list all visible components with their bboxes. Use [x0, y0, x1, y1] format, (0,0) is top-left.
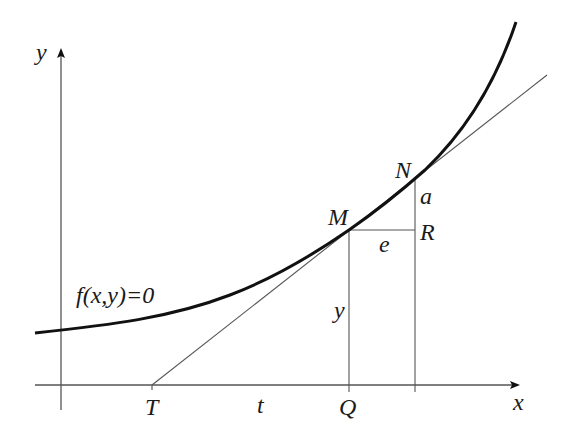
tangent-diagram — [0, 0, 574, 446]
curve-label: f(x,y)=0 — [76, 283, 154, 307]
segment-t-label: t — [257, 393, 264, 417]
y-axis-label: y — [36, 40, 47, 64]
point-t-label: T — [145, 395, 158, 419]
point-q-label: Q — [339, 395, 356, 419]
point-n-label: N — [395, 158, 411, 182]
segment-y-label: y — [334, 298, 345, 322]
x-axis-label: x — [513, 390, 524, 414]
point-m-label: M — [328, 205, 348, 229]
segment-e-label: e — [379, 232, 390, 256]
segment-a-label: a — [420, 184, 432, 208]
point-r-label: R — [420, 220, 435, 244]
